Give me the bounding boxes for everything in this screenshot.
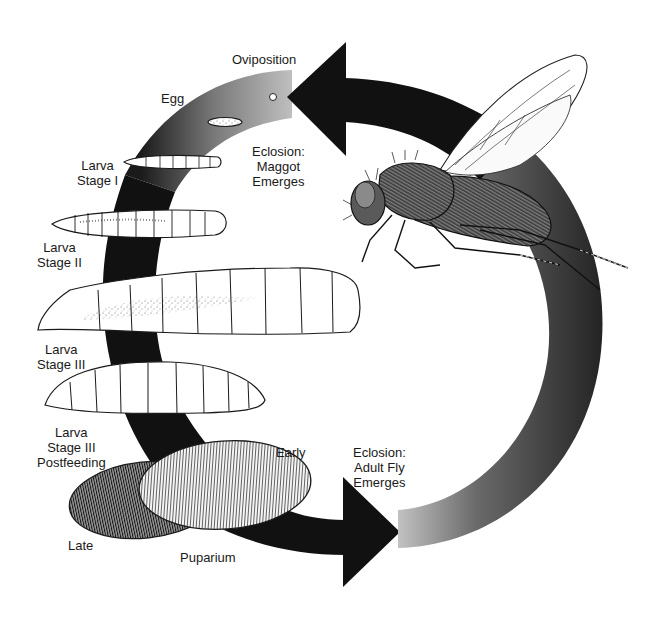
label-puparium-early: Early (276, 445, 306, 460)
label-eclosion-adult: Eclosion: Adult Fly Emerges (353, 445, 406, 490)
label-puparium: Puparium (180, 550, 236, 565)
label-line: Eclosion: (252, 144, 305, 159)
label-line: Emerges (353, 475, 406, 490)
label-egg-text: Egg (161, 91, 184, 106)
larva-stage-2-illustration (52, 210, 226, 238)
life-cycle-diagram (0, 0, 666, 621)
egg-illustration (208, 118, 242, 127)
label-line: Stage III (37, 440, 106, 455)
label-oviposition-text: Oviposition (232, 52, 296, 67)
label-puparium-text: Puparium (180, 550, 236, 565)
label-line: Adult Fly (353, 460, 406, 475)
label-line: Larva (37, 342, 85, 357)
label-line: Maggot (252, 159, 305, 174)
label-line: Emerges (252, 174, 305, 189)
label-line: Eclosion: (353, 445, 406, 460)
oviposition-egg-dot (270, 94, 277, 101)
label-line: Stage II (37, 255, 82, 270)
label-line: Stage I (77, 173, 118, 188)
label-line: Larva (37, 425, 106, 440)
label-line: Larva (77, 158, 118, 173)
arrow-head-bottom (343, 477, 400, 587)
label-early-text: Early (276, 445, 306, 460)
label-larva-stage-1: Larva Stage I (77, 158, 118, 188)
fly-thorax (378, 163, 454, 220)
label-larva-stage-2: Larva Stage II (37, 240, 82, 270)
fly-eye (355, 182, 375, 208)
label-larva-stage-3-postfeeding: Larva Stage III Postfeeding (37, 425, 106, 470)
label-line: Larva (37, 240, 82, 255)
label-puparium-late: Late (68, 538, 93, 553)
larva-stage-3-illustration (38, 268, 360, 334)
label-larva-stage-3: Larva Stage III (37, 342, 85, 372)
label-late-text: Late (68, 538, 93, 553)
label-line: Stage III (37, 357, 85, 372)
label-line: Postfeeding (37, 455, 106, 470)
label-eclosion-maggot: Eclosion: Maggot Emerges (252, 144, 305, 189)
label-oviposition: Oviposition (232, 52, 296, 67)
label-egg: Egg (161, 91, 184, 106)
